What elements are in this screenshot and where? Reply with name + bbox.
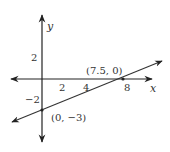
y-tick-2: 2	[31, 52, 37, 63]
x-tick-8: 8	[124, 82, 130, 93]
y-tick-neg2: −2	[25, 94, 40, 105]
x-intercept-point	[121, 77, 124, 80]
coordinate-graph: y x 2 4 8 2 −2 (7.5, 0) (0, −3)	[0, 0, 170, 152]
x-intercept-label: (7.5, 0)	[86, 65, 123, 76]
y-intercept-label: (0, −3)	[51, 112, 86, 123]
y-axis-label: y	[46, 20, 54, 33]
x-axis-label: x	[150, 82, 157, 95]
x-tick-2: 2	[59, 82, 65, 93]
y-intercept-point	[40, 108, 43, 111]
x-tick-4: 4	[83, 82, 89, 93]
